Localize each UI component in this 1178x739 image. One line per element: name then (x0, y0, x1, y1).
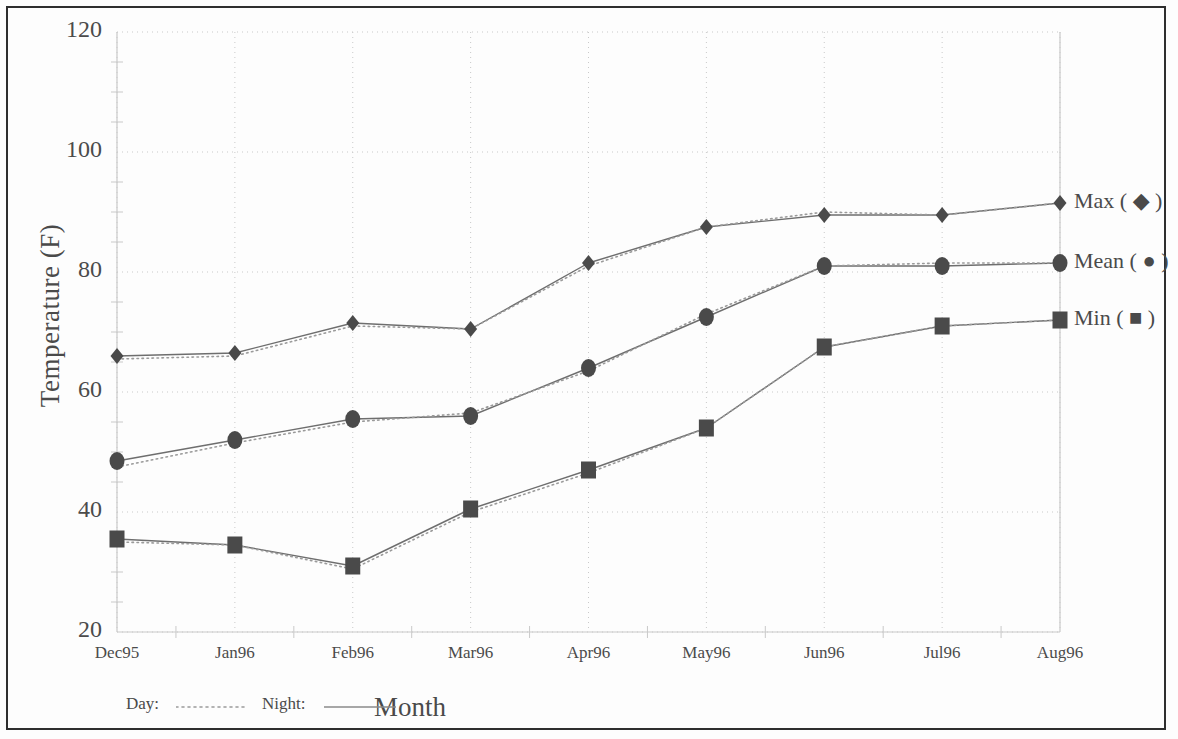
x-tick-label-Jan96: Jan96 (175, 643, 295, 663)
data-point-min-Feb96 (345, 558, 360, 575)
y-tick-label: 120 (42, 16, 102, 43)
x-tick-label-Feb96: Feb96 (293, 643, 413, 663)
x-tick-label-Mar96: Mar96 (411, 643, 531, 663)
data-point-max-Aug96 (1054, 195, 1067, 211)
x-tick-label-Jun96: Jun96 (764, 643, 884, 663)
legend-item-max: Max ( ◆ ) (1074, 188, 1162, 214)
legend-day-label: Day: (126, 694, 159, 714)
data-point-max-Mar96 (464, 321, 477, 337)
series-line-max-night (117, 203, 1060, 356)
data-point-min-Jul96 (935, 318, 950, 335)
data-point-mean-Jun96 (817, 257, 832, 275)
data-point-max-Jul96 (936, 207, 949, 223)
data-point-min-May96 (699, 420, 714, 437)
data-point-min-Mar96 (463, 501, 478, 518)
data-point-max-Jan96 (228, 345, 241, 361)
y-tick-label: 100 (42, 136, 102, 163)
legend-night-label: Night: (262, 694, 305, 714)
data-point-max-Feb96 (346, 315, 359, 331)
legend-item-min: Min ( ■ ) (1074, 305, 1155, 331)
data-point-min-Jun96 (817, 339, 832, 356)
x-tick-label-Apr96: Apr96 (529, 643, 649, 663)
y-tick-label: 60 (42, 376, 102, 403)
grid-lines (111, 32, 1060, 638)
data-point-min-Dec95 (110, 531, 125, 548)
y-axis-title: Temperature (F) (35, 116, 66, 516)
legend-night-line-swatch (324, 702, 396, 712)
data-point-mean-Aug96 (1053, 254, 1068, 272)
legend-item-mean: Mean ( ● ) (1074, 248, 1169, 274)
chart-plot-area (0, 0, 1178, 739)
y-tick-label: 20 (42, 616, 102, 643)
data-point-mean-Dec95 (110, 452, 125, 470)
data-point-max-Jun96 (818, 207, 831, 223)
y-tick-label: 40 (42, 496, 102, 523)
data-point-mean-Jul96 (935, 257, 950, 275)
data-point-mean-Jan96 (227, 431, 242, 449)
data-point-mean-Apr96 (581, 359, 596, 377)
x-axis-title: Month (0, 692, 820, 723)
chart-figure: Temperature (F) Month 12010080604020 Dec… (0, 0, 1178, 739)
x-tick-label-Aug96: Aug96 (1000, 643, 1120, 663)
x-tick-label-Jul96: Jul96 (882, 643, 1002, 663)
data-point-min-Apr96 (581, 462, 596, 479)
y-tick-label: 80 (42, 256, 102, 283)
data-point-min-Aug96 (1053, 312, 1068, 329)
x-tick-label-Dec95: Dec95 (57, 643, 177, 663)
data-point-mean-May96 (699, 308, 714, 326)
data-point-mean-Feb96 (345, 410, 360, 428)
series-line-max-day (117, 203, 1060, 359)
data-point-min-Jan96 (227, 537, 242, 554)
data-point-max-May96 (700, 219, 713, 235)
data-point-mean-Mar96 (463, 407, 478, 425)
x-tick-label-May96: May96 (646, 643, 766, 663)
legend-day-line-swatch (176, 702, 246, 712)
